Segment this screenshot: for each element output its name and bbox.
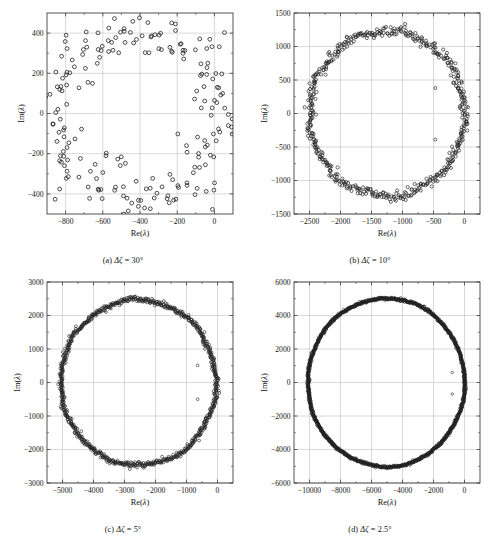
data-point xyxy=(100,44,104,48)
panel-c-caption-symbol: Δζ xyxy=(116,525,124,534)
y-tick-label: −3000 xyxy=(24,479,44,488)
scatter-points xyxy=(57,295,221,470)
panel-c-caption-value: 5° xyxy=(134,525,142,534)
data-point xyxy=(80,127,84,131)
data-point xyxy=(193,193,197,197)
data-point xyxy=(167,201,171,205)
data-point xyxy=(205,66,209,70)
data-point xyxy=(430,185,433,188)
data-point xyxy=(454,62,457,65)
y-tick-label: 1000 xyxy=(28,345,43,354)
data-point xyxy=(168,172,172,176)
data-point xyxy=(60,54,64,58)
data-point xyxy=(185,181,189,185)
x-tick-label: −3000 xyxy=(115,486,135,495)
data-point xyxy=(212,188,216,192)
data-point xyxy=(161,455,164,458)
x-tick-label: −1000 xyxy=(177,486,197,495)
data-point xyxy=(203,139,207,143)
data-point xyxy=(93,162,97,166)
data-point xyxy=(466,114,469,117)
plot-c: −5000−4000−3000−2000−10000−3000−2000−100… xyxy=(0,269,246,538)
data-point xyxy=(107,26,111,30)
data-point xyxy=(151,176,155,180)
y-tick-label: −1500 xyxy=(271,210,291,219)
data-point xyxy=(463,109,466,112)
data-point xyxy=(89,169,93,173)
y-tick-label: 1500 xyxy=(275,9,290,18)
data-point xyxy=(204,163,208,167)
panel-a-caption: (a) Δζ = 30° xyxy=(0,257,246,265)
data-point xyxy=(410,188,413,191)
data-point xyxy=(193,165,197,169)
x-tick-label: −200 xyxy=(169,217,185,226)
data-point xyxy=(330,175,333,178)
x-tick-label: −5000 xyxy=(53,486,73,495)
data-point xyxy=(53,197,57,201)
x-tick-label: 0 xyxy=(216,486,220,495)
data-point xyxy=(195,186,199,190)
data-point xyxy=(64,33,68,37)
data-point xyxy=(54,111,58,115)
data-point xyxy=(122,27,126,31)
data-point xyxy=(168,45,172,49)
y-axis-title: Im(λ) xyxy=(13,373,22,392)
data-point xyxy=(211,207,215,211)
data-point xyxy=(199,106,203,110)
y-tick-label: −400 xyxy=(28,190,44,199)
x-tick-label: −2500 xyxy=(300,217,320,226)
x-tick-label: −400 xyxy=(132,217,148,226)
data-point xyxy=(58,117,62,121)
data-point xyxy=(146,301,149,304)
data-point xyxy=(84,39,88,43)
y-tick-label: −2000 xyxy=(24,445,44,454)
data-point xyxy=(210,106,214,110)
data-point xyxy=(198,166,202,170)
data-point xyxy=(208,37,212,41)
data-point xyxy=(107,50,111,54)
data-point xyxy=(347,181,350,184)
x-tick-label: −8000 xyxy=(331,486,351,495)
data-point xyxy=(223,106,227,110)
data-point xyxy=(406,186,409,189)
y-tick-label: −200 xyxy=(28,149,44,158)
panel-b: −2500−2000−1500−1000−5000−1500−1000−5000… xyxy=(247,0,493,269)
data-point xyxy=(84,67,88,71)
data-point xyxy=(210,45,214,49)
x-tick-label: −2000 xyxy=(331,217,351,226)
y-axis-title: Im(λ) xyxy=(260,104,269,123)
data-point xyxy=(48,92,52,96)
data-point xyxy=(140,34,144,38)
x-tick-label: −2000 xyxy=(146,486,166,495)
data-point xyxy=(236,142,240,146)
data-point xyxy=(80,430,83,433)
data-point xyxy=(121,185,125,189)
plot-b: −2500−2000−1500−1000−5000−1500−1000−5000… xyxy=(247,0,493,269)
y-axis-title: Im(λ) xyxy=(17,104,26,123)
data-point xyxy=(123,41,127,45)
data-point xyxy=(413,182,416,185)
data-point xyxy=(86,185,90,189)
data-point xyxy=(206,61,210,65)
x-tick-label: 0 xyxy=(463,486,467,495)
data-point xyxy=(67,141,71,145)
isolated-eigenvalue-point xyxy=(451,371,454,374)
data-point xyxy=(350,189,353,192)
data-point xyxy=(451,145,454,148)
data-point xyxy=(191,171,195,175)
data-point xyxy=(38,95,42,99)
y-tick-label: −2000 xyxy=(271,412,291,421)
data-point xyxy=(446,158,449,161)
panel-d-caption: (d) Δζ = 2.5° xyxy=(247,526,493,534)
panel-b-caption-prefix: (b) xyxy=(349,256,359,265)
data-point xyxy=(170,49,174,53)
data-point xyxy=(148,186,152,190)
data-point xyxy=(303,106,306,109)
data-point xyxy=(104,154,108,158)
data-point xyxy=(100,197,104,201)
y-tick-label: −4000 xyxy=(271,445,291,454)
data-point xyxy=(119,30,123,34)
data-point xyxy=(114,36,118,40)
panel-a-caption-symbol: Δζ xyxy=(114,256,122,265)
data-point xyxy=(212,132,216,136)
